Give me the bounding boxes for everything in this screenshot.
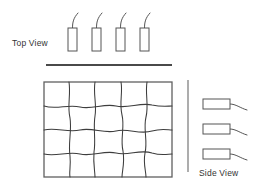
probe-body (116, 28, 125, 51)
mesh-horizontal-line (44, 129, 172, 132)
probe-body (203, 149, 230, 159)
side-view-probe-1 (203, 99, 247, 110)
mesh-outer-border (44, 82, 172, 177)
mesh-vertical-line (69, 82, 71, 177)
probe-wire-icon (145, 13, 151, 28)
side-view-group: Side View (188, 80, 247, 178)
probe-wire-icon (230, 129, 247, 135)
probe-wire-icon (230, 104, 247, 110)
mesh-grid-group (44, 82, 172, 177)
side-view-probe-3 (203, 149, 247, 160)
diagram-canvas: Top View (0, 0, 261, 191)
mesh-vertical-line (121, 82, 124, 177)
probe-wire-icon (230, 154, 247, 160)
side-view-label: Side View (199, 168, 239, 178)
sensor-array-diagram: Top View (0, 0, 261, 191)
probe-wire-icon (73, 13, 79, 28)
probe-body (92, 28, 101, 51)
probe-body (203, 99, 230, 109)
probe-body (68, 28, 77, 51)
probe-body (203, 124, 230, 134)
mesh-vertical-line (144, 82, 147, 177)
top-view-probe-2 (92, 13, 102, 51)
top-view-probe-3 (116, 13, 126, 51)
mesh-horizontal-line (44, 152, 172, 155)
probe-body (140, 28, 149, 51)
probe-wire-icon (121, 13, 127, 28)
top-view-label: Top View (12, 38, 49, 48)
mesh-horizontal-line (44, 104, 172, 108)
top-view-probe-4 (140, 13, 150, 51)
top-view-group: Top View (12, 13, 172, 65)
probe-wire-icon (97, 13, 103, 28)
side-view-probe-2 (203, 124, 247, 135)
top-view-probe-1 (68, 13, 78, 51)
